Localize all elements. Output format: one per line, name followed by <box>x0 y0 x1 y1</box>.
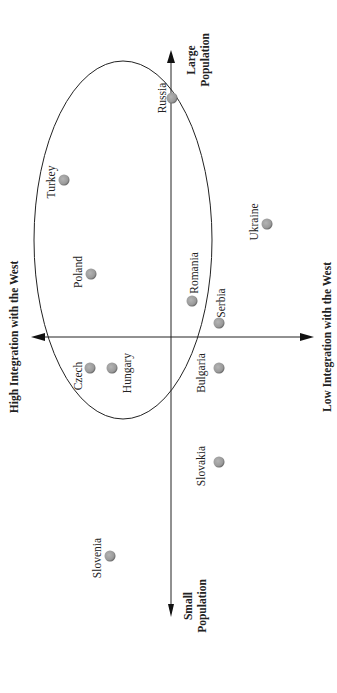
point-hungary: Hungary <box>107 353 135 393</box>
integration-axis <box>31 333 314 341</box>
svg-text:Turkey: Turkey <box>45 165 58 198</box>
point-serbia: Serbia <box>214 288 228 328</box>
svg-text:Czech: Czech <box>72 361 84 390</box>
point-turkey: Turkey <box>45 165 70 198</box>
large-population-label: Large Population <box>185 33 212 87</box>
positioning-map: Large Population Small Population High I… <box>0 0 337 693</box>
svg-text:Poland: Poland <box>72 256 84 288</box>
arrow-up-icon <box>167 50 175 63</box>
svg-text:Serbia: Serbia <box>215 288 227 317</box>
svg-text:Small: Small <box>182 592 194 620</box>
svg-text:Large: Large <box>185 45 198 74</box>
arrow-right-icon <box>300 333 314 341</box>
svg-text:Hungary: Hungary <box>121 353 134 393</box>
small-population-label: Small Population <box>182 579 209 633</box>
point-poland: Poland <box>72 256 97 288</box>
point-russia: Russia <box>156 83 178 114</box>
point-bulgaria: Bulgaria <box>195 353 225 393</box>
arrow-down-icon <box>168 604 174 617</box>
point-ukraine: Ukraine <box>248 203 273 240</box>
population-axis <box>167 50 175 617</box>
high-integration-label: High Integration with the West <box>8 261 21 414</box>
point-czech: Czech <box>72 361 96 390</box>
svg-text:Slovenia: Slovenia <box>91 538 103 578</box>
svg-text:Romania: Romania <box>188 252 200 294</box>
point-slovenia: Slovenia <box>91 538 116 578</box>
point-romania: Romania <box>187 252 201 306</box>
svg-text:Russia: Russia <box>156 83 168 114</box>
low-integration-label: Low Integration with the West <box>321 262 334 412</box>
svg-text:Population: Population <box>196 579 209 633</box>
arrow-left-icon <box>31 333 45 341</box>
svg-text:Bulgaria: Bulgaria <box>195 353 208 393</box>
svg-text:Population: Population <box>199 33 212 87</box>
svg-text:Slovakia: Slovakia <box>195 446 207 486</box>
point-slovakia: Slovakia <box>195 446 225 486</box>
svg-text:Ukraine: Ukraine <box>248 203 260 240</box>
